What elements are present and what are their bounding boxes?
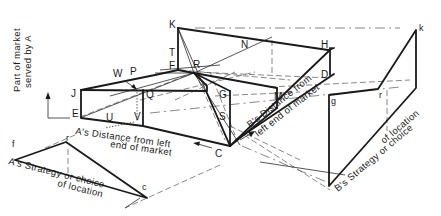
b-strategy-label-line1: B's Strategy or choice (332, 122, 415, 194)
y-axis (46, 92, 71, 118)
point-r-left: r (66, 133, 69, 143)
point-R: R (193, 59, 200, 70)
point-G: G (219, 89, 227, 100)
y-axis-label-line2: served by A (22, 35, 33, 88)
point-k: k (419, 23, 424, 33)
point-Q: Q (146, 89, 154, 100)
point-N: N (241, 39, 248, 50)
point-D: D (321, 69, 328, 80)
point-E: E (72, 108, 79, 119)
point-W: W (113, 68, 123, 79)
point-H: H (321, 39, 328, 50)
point-c: c (142, 182, 147, 192)
point-U: U (106, 112, 113, 123)
arrow-left-icon (193, 142, 200, 147)
point-K: K (169, 19, 176, 30)
point-T: T (169, 47, 175, 58)
point-V: V (134, 111, 141, 122)
point-f: f (12, 139, 15, 149)
point-M: M (274, 91, 282, 102)
point-r-right: r (379, 90, 382, 100)
point-S: S (219, 111, 226, 122)
surface-diagram-svg: Part of market served by A A's Distance … (0, 0, 441, 216)
point-P: P (130, 66, 137, 77)
point-J: J (71, 88, 76, 99)
point-g: g (331, 96, 336, 106)
arrow-up-icon (46, 92, 51, 99)
point-F: F (169, 60, 175, 71)
point-C: C (215, 148, 222, 159)
y-axis-label-line1: Part of market (11, 28, 22, 92)
market-location-diagram: Part of market served by A A's Distance … (0, 0, 441, 216)
